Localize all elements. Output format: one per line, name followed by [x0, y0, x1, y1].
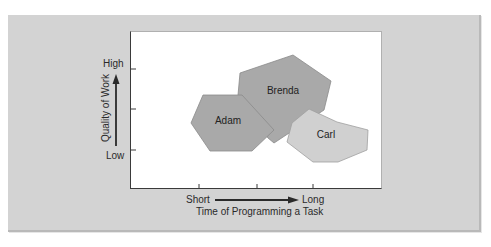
x-short-label: Short [186, 195, 210, 205]
region-label-brenda: Brenda [267, 86, 299, 96]
region-label-adam: Adam [215, 116, 241, 126]
y-low-label: Low [106, 151, 124, 161]
y-axis-title: Quality of Work [101, 74, 111, 142]
x-ticks [199, 184, 313, 189]
y-ticks [131, 69, 136, 150]
y-high-label: High [103, 59, 124, 69]
region-label-carl: Carl [317, 130, 335, 140]
y-axis-arrow-icon [113, 74, 120, 146]
x-long-label: Long [302, 195, 324, 205]
x-axis-arrow-icon [215, 197, 299, 204]
x-axis-title: Time of Programming a Task [196, 207, 323, 217]
